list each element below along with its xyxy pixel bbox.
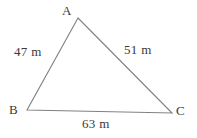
side-label-bc: 63 m <box>82 117 110 130</box>
vertex-label-b: B <box>9 103 18 116</box>
vertex-label-a: A <box>62 4 71 17</box>
side-label-ac: 51 m <box>124 43 152 56</box>
side-label-ab: 47 m <box>14 45 42 58</box>
triangle-figure: A B C 47 m 51 m 63 m <box>0 0 197 138</box>
vertex-label-c: C <box>176 104 185 117</box>
triangle-outline <box>27 18 172 113</box>
